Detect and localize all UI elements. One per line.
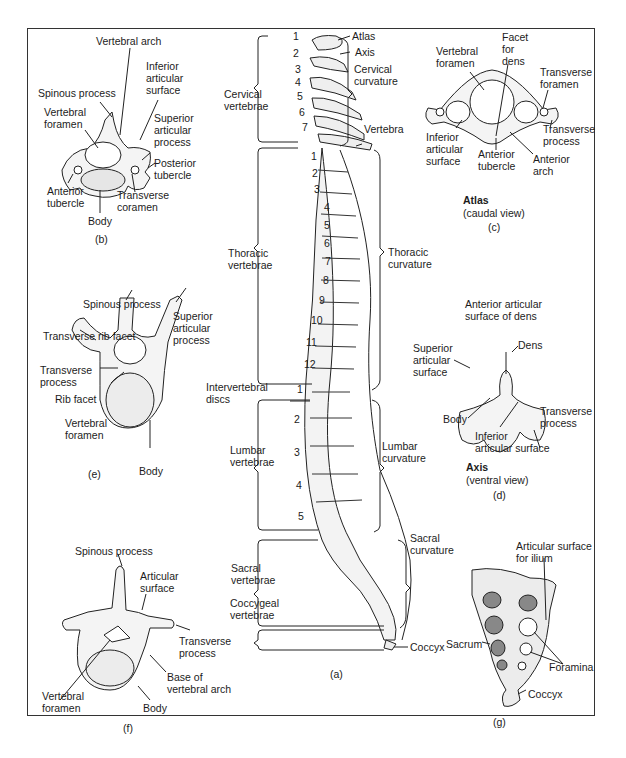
cervical-number-4: 4: [295, 76, 301, 88]
label-f-articular-surface: Articular surface: [140, 570, 179, 594]
label-sacral-curvature: Sacral curvature: [410, 532, 454, 556]
label-f-spinous-process: Spinous process: [75, 545, 153, 557]
thoracic-number-5: 5: [324, 219, 330, 231]
label-g-foramina: Foramina: [549, 661, 593, 673]
title-d-axis: Axis: [466, 461, 488, 473]
thoracic-number-7: 7: [325, 255, 331, 267]
label-e-superior-articular-process: Superior articular process: [173, 310, 213, 346]
title-c-atlas: Atlas: [463, 194, 489, 206]
label-e-transverse-rib-facet: Transverse rib facet: [43, 330, 135, 342]
thoracic-number-2: 2: [312, 167, 318, 179]
cervical-number-6: 6: [299, 106, 305, 118]
label-d-inferior-articular-surface: Inferior articular surface: [475, 430, 550, 454]
label-d-dens: Dens: [518, 339, 543, 351]
subtitle-c-caudal-view: (caudal view): [463, 207, 525, 219]
lumbar-number-1: 1: [297, 383, 303, 395]
label-b-spinous-process: Spinous process: [38, 87, 116, 99]
label-b-superior-articular-process: Superior articular process: [154, 112, 194, 148]
sacrum-drawing: [472, 569, 556, 707]
label-g-articular-surface-for-ilium: Articular surface for ilium: [516, 540, 592, 564]
thoracic-number-3: 3: [314, 183, 320, 195]
thoracic-vertebra-drawing: [72, 296, 182, 428]
thoracic-number-4: 4: [324, 201, 330, 213]
thoracic-number-10: 10: [311, 314, 323, 326]
label-vertebra: Vertebra: [364, 123, 404, 135]
label-c-facet-for-dens: Facet for dens: [502, 31, 528, 67]
thoracic-number-9: 9: [319, 294, 325, 306]
label-b-vertebral-arch: Vertebral arch: [96, 35, 161, 47]
label-f-transverse-process: Transverse process: [179, 635, 231, 659]
lumbar-number-4: 4: [296, 479, 302, 491]
label-b-posterior-tubercle: Posterior tubercle: [154, 157, 196, 181]
label-coccyx-a: Coccyx: [410, 641, 444, 653]
thoracic-number-12: 12: [304, 358, 316, 370]
label-b-transverse-foramen: Transverse coramen: [117, 189, 169, 213]
label-e-body: Body: [139, 465, 163, 477]
cervical-number-2: 2: [293, 47, 299, 59]
label-d-anterior-articular-surface-of-dens: Anterior articular surface of dens: [465, 298, 542, 322]
label-coccygeal-vertebrae: Coccygeal vertebrae: [230, 597, 279, 621]
caption-b: (b): [95, 233, 108, 245]
label-thoracic-vertebrae: Thoracic vertebrae: [228, 247, 272, 271]
label-c-anterior-tubercle: Anterior tubercle: [478, 148, 515, 172]
label-d-body: Body: [443, 413, 467, 425]
lumbar-number-2: 2: [294, 413, 300, 425]
label-axis: Axis: [355, 46, 375, 58]
label-b-body: Body: [88, 215, 112, 227]
label-c-inferior-articular-surface: Inferior articular surface: [426, 131, 463, 167]
cervical-number-1: 1: [293, 30, 299, 42]
label-c-anterior-arch: Anterior arch: [533, 153, 570, 177]
label-e-transverse-process: Transverse process: [40, 364, 92, 388]
lumbar-number-5: 5: [298, 510, 304, 522]
caption-c: (c): [488, 221, 500, 233]
label-e-vertebral-foramen: Vertebral foramen: [65, 417, 107, 441]
caption-a: (a): [330, 668, 343, 680]
label-c-transverse-foramen: Transverse foramen: [540, 66, 592, 90]
label-d-superior-articular-surface: Superior articular surface: [413, 342, 453, 378]
label-g-coccyx: Coccyx: [528, 688, 562, 700]
label-d-transverse-process: Transverse process: [540, 405, 592, 429]
label-lumbar-curvature: Lumbar curvature: [382, 440, 426, 464]
label-e-spinous-process: Spinous process: [83, 298, 161, 310]
label-thoracic-curvature: Thoracic curvature: [388, 246, 432, 270]
label-lumbar-vertebrae: Lumbar vertebrae: [230, 444, 274, 468]
label-g-sacrum: Sacrum: [446, 638, 482, 650]
caption-e: (e): [88, 468, 101, 480]
label-f-base-of-vertebral-arch: Base of vertebral arch: [167, 671, 231, 695]
label-b-anterior-tubercle: Anterior tubercle: [47, 185, 84, 209]
label-f-vertebral-foramen: Vertebral foramen: [42, 690, 84, 714]
thoracic-number-8: 8: [323, 274, 329, 286]
thoracic-number-6: 6: [324, 237, 330, 249]
caption-g: (g): [493, 716, 506, 728]
label-b-vertebral-foramen: Vertebral foramen: [44, 106, 86, 130]
illustration-layer: [0, 0, 626, 758]
caption-d: (d): [493, 489, 506, 501]
cervical-number-5: 5: [297, 90, 303, 102]
label-atlas: Atlas: [352, 30, 375, 42]
label-c-vertebral-foramen: Vertebral foramen: [436, 45, 478, 69]
subtitle-d-ventral-view: (ventral view): [466, 474, 528, 486]
caption-f: (f): [123, 722, 133, 734]
cervical-number-3: 3: [295, 63, 301, 75]
lumbar-number-3: 3: [294, 446, 300, 458]
label-cervical-curvature: Cervical curvature: [354, 63, 398, 87]
thoracic-number-11: 11: [306, 336, 317, 348]
label-sacral-vertebrae: Sacral vertebrae: [231, 562, 275, 586]
cervical-number-7: 7: [302, 121, 308, 133]
label-intervertebral-discs: Intervertebral discs: [206, 381, 268, 405]
label-cervical-vertebrae: Cervical vertebrae: [224, 88, 268, 112]
label-f-body: Body: [143, 702, 167, 714]
label-c-transverse-process: Transverse process: [543, 123, 595, 147]
label-e-rib-facet: Rib facet: [55, 393, 96, 405]
thoracic-number-1: 1: [311, 150, 317, 162]
label-b-inferior-articular-surface: Inferior articular surface: [146, 60, 183, 96]
